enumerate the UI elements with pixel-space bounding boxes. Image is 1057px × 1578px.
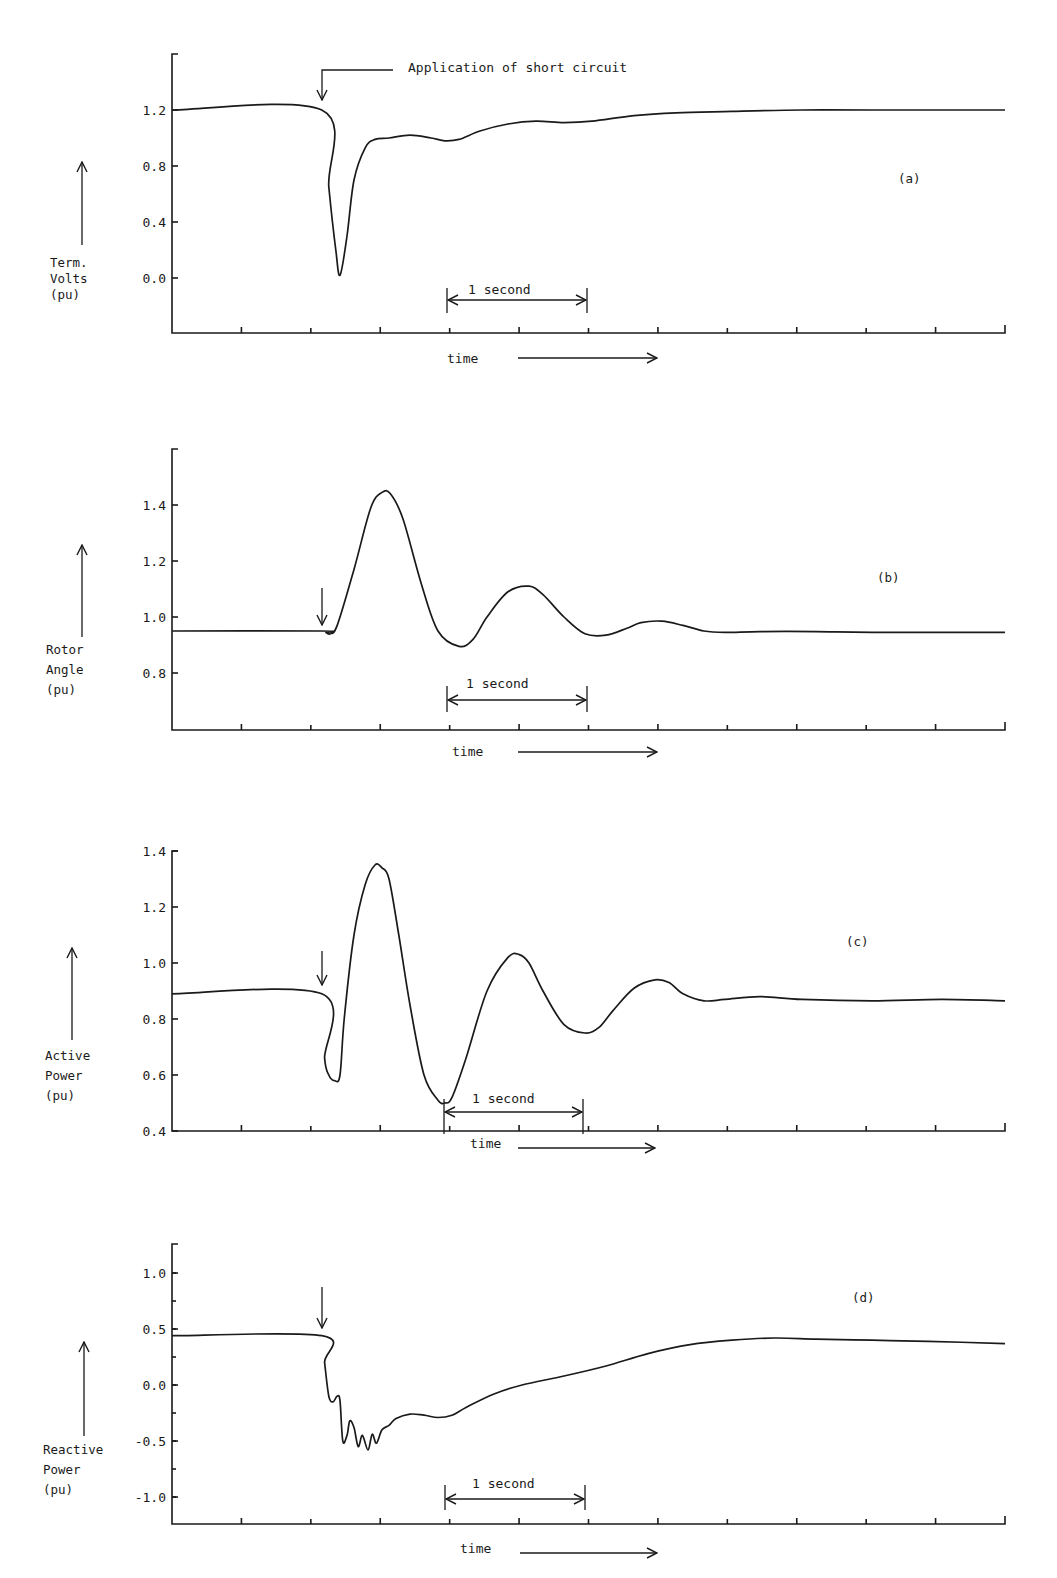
time-label-a: time (447, 351, 657, 366)
axes-b (172, 449, 1005, 730)
panel-label: (c) (846, 934, 869, 949)
y-tick-label: 1.4 (143, 844, 167, 859)
ylabel-line: (pu) (46, 682, 76, 697)
y-axis-label-c: Active Power (pu) (45, 948, 90, 1103)
axes-c (172, 851, 1005, 1131)
chart-panel-b: Rotor Angle (pu) 1.41.21.00.8 (b) 1 seco… (46, 449, 1005, 759)
ylabel-line: (pu) (50, 287, 80, 302)
one-second-scale-bar: 1 second (447, 676, 587, 712)
y-tick-label: -0.5 (135, 1434, 166, 1449)
y-tick-label: 0.4 (143, 1124, 167, 1139)
y-tick-label: 1.2 (143, 900, 166, 915)
ylabel-line: (pu) (45, 1088, 75, 1103)
scale-bar-label: 1 second (472, 1476, 535, 1491)
y-tick-label: 0.5 (143, 1322, 166, 1337)
time-label: time (460, 1541, 491, 1556)
panel-label: (b) (877, 570, 900, 585)
reactive-power-trace (172, 1334, 1005, 1450)
one-second-scale-bar: 1 second (444, 1091, 583, 1134)
rotor-angle-trace (172, 491, 1005, 647)
ylabel-line: Active (45, 1048, 90, 1063)
one-second-scale-bar: 1 second (445, 1476, 585, 1510)
terminal-voltage-trace (172, 104, 1005, 275)
y-axis-label-d: Reactive Power (pu) (43, 1342, 103, 1497)
y-tick-label: 0.8 (143, 159, 166, 174)
one-second-scale-bar: 1 second (447, 282, 587, 313)
time-label-d: time (460, 1541, 657, 1556)
time-label-c: time (470, 1136, 655, 1151)
y-tick-label: 1.4 (143, 498, 167, 513)
scale-bar-label: 1 second (472, 1091, 535, 1106)
ylabel-line: Term. (50, 255, 88, 270)
down-arrow-icon (322, 70, 393, 100)
time-label: time (452, 744, 483, 759)
annotation-text: Application of short circuit (408, 60, 627, 75)
panel-label: (a) (898, 171, 921, 186)
time-label: time (447, 351, 478, 366)
y-tick-label: 1.2 (143, 103, 166, 118)
y-tick-label: 1.0 (143, 1266, 166, 1281)
y-axis-label-b: Rotor Angle (pu) (46, 545, 84, 697)
axes-d (172, 1244, 1005, 1524)
figure-canvas: Term. Volts (pu) 1.20.80.40.0 Applicatio… (0, 0, 1057, 1578)
ylabel-line: (pu) (43, 1482, 73, 1497)
y-tick-label: 1.2 (143, 554, 166, 569)
ylabel-line: Power (45, 1068, 83, 1083)
ylabel-line: Power (43, 1462, 81, 1477)
scale-bar-label: 1 second (468, 282, 531, 297)
scale-bar-label: 1 second (466, 676, 529, 691)
active-power-trace (172, 864, 1005, 1104)
panel-label: (d) (852, 1290, 875, 1305)
y-tick-label: 0.0 (143, 271, 166, 286)
y-tick-label: 0.0 (143, 1378, 166, 1393)
ylabel-line: Reactive (43, 1442, 103, 1457)
axes-a (172, 54, 1005, 333)
chart-panel-c: Active Power (pu) 1.41.21.00.80.60.4 (c)… (45, 844, 1005, 1152)
ylabel-line: Angle (46, 662, 84, 677)
y-tick-label: 1.0 (143, 956, 166, 971)
y-tick-label: -1.0 (135, 1490, 166, 1505)
y-tick-label: 0.8 (143, 666, 166, 681)
y-tick-label: 0.6 (143, 1068, 166, 1083)
ylabel-line: Rotor (46, 642, 84, 657)
short-circuit-annotation: Application of short circuit (322, 60, 627, 100)
time-label-b: time (452, 744, 657, 759)
chart-panel-d: Reactive Power (pu) 1.00.50.0-0.5-1.0 (d… (43, 1244, 1005, 1556)
y-tick-label: 0.8 (143, 1012, 166, 1027)
chart-panel-a: Term. Volts (pu) 1.20.80.40.0 Applicatio… (50, 54, 1005, 366)
ylabel-line: Volts (50, 271, 88, 286)
y-axis-label-a: Term. Volts (pu) (50, 162, 88, 302)
time-label: time (470, 1136, 501, 1151)
y-tick-label: 0.4 (143, 215, 167, 230)
y-tick-label: 1.0 (143, 610, 166, 625)
